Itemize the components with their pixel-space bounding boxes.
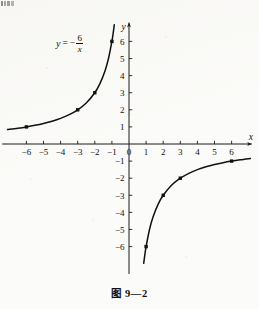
x-tick-label-neg5: −5	[39, 147, 49, 157]
y-tick-label-neg5: −5	[115, 225, 125, 235]
data-point-marker	[230, 159, 233, 162]
x-tick-label-5: 5	[212, 147, 217, 157]
x-tick-label-1: 1	[144, 147, 149, 157]
y-tick-label-neg6: −6	[115, 242, 125, 252]
equation-equals: =	[62, 39, 67, 49]
equation-lhs: y	[56, 39, 60, 49]
equation-fraction: 6 x	[76, 34, 83, 54]
x-tick-label-3: 3	[178, 147, 183, 157]
x-tick-label-neg1: −1	[107, 147, 117, 157]
x-tick-label-2: 2	[161, 147, 166, 157]
y-tick-label-2: 2	[120, 105, 125, 115]
x-tick-label-neg2: −2	[90, 147, 100, 157]
data-point-marker	[110, 40, 113, 43]
hyperbola-plot: −6−5−4−3−2−10123456−6−5−4−3−2−1123456xy	[0, 0, 259, 282]
data-point-marker	[162, 194, 165, 197]
x-tick-label-neg4: −4	[56, 147, 66, 157]
fraction-numerator: 6	[76, 34, 83, 44]
y-tick-label-6: 6	[120, 37, 125, 47]
data-point-marker	[25, 125, 28, 128]
y-tick-label-1: 1	[120, 122, 125, 132]
x-tick-label-neg6: −6	[22, 147, 32, 157]
y-tick-label-4: 4	[120, 71, 125, 81]
data-point-marker	[93, 91, 96, 94]
figure-caption: 图 9—2	[0, 285, 259, 300]
data-point-marker	[179, 177, 182, 180]
figure-container: −6−5−4−3−2−10123456−6−5−4−3−2−1123456xy …	[0, 0, 259, 309]
y-tick-label-neg1: −1	[115, 156, 125, 166]
x-tick-label-4: 4	[195, 147, 200, 157]
y-axis-label: y	[120, 22, 126, 32]
curve-branch-quadrant-IV	[144, 158, 251, 263]
equation-annotation: y = − 6 x	[56, 34, 83, 54]
x-tick-label-6: 6	[229, 147, 234, 157]
y-tick-label-3: 3	[120, 88, 125, 98]
y-tick-label-neg2: −2	[115, 173, 125, 183]
x-axis-label: x	[248, 132, 254, 142]
fraction-denominator: x	[77, 44, 83, 54]
x-tick-label-neg3: −3	[73, 147, 83, 157]
data-point-marker	[144, 245, 147, 248]
x-tick-label-0: 0	[127, 147, 132, 157]
y-tick-label-neg3: −3	[115, 191, 125, 201]
equation-minus: −	[70, 39, 75, 49]
y-tick-label-neg4: −4	[115, 208, 125, 218]
tick-labels-group: −6−5−4−3−2−10123456−6−5−4−3−2−1123456xy	[22, 22, 254, 252]
y-tick-label-5: 5	[120, 54, 125, 64]
data-point-marker	[76, 108, 79, 111]
